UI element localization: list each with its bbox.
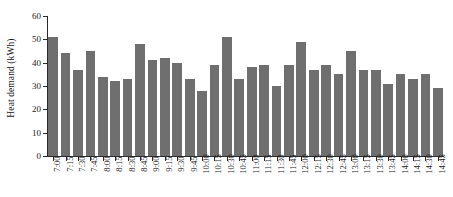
bar	[197, 91, 207, 156]
y-tick-label: 50	[32, 35, 41, 44]
y-tick-mark	[43, 156, 47, 157]
bar	[421, 74, 431, 156]
x-tick-label: 9:00	[152, 156, 161, 171]
bar	[160, 58, 170, 156]
x-tick-label: 14:00	[401, 154, 410, 174]
x-tick-label: 10:00	[202, 154, 211, 174]
x-tick-label: 7:45	[90, 156, 99, 171]
x-tick-label: 10:45	[239, 154, 248, 174]
x-tick-label: 9:30	[177, 156, 186, 171]
bar	[371, 70, 381, 156]
x-tick-label: 14:15	[413, 154, 422, 174]
x-tick-label: 9:45	[190, 156, 199, 171]
x-tick-label: 10:15	[214, 154, 223, 174]
x-tick-label: 11:45	[289, 154, 298, 173]
bar	[98, 77, 108, 156]
x-tick-label: 8:30	[128, 156, 137, 171]
bar	[123, 79, 133, 156]
bar	[73, 70, 83, 156]
x-tick-label: 8:00	[103, 156, 112, 171]
bar	[61, 53, 71, 156]
x-tick-label: 11:15	[264, 154, 273, 173]
x-tick-label: 12:30	[326, 154, 335, 174]
y-tick-mark	[43, 133, 47, 134]
y-tick-label: 30	[32, 82, 41, 91]
x-tick-label: 7:00	[53, 156, 62, 171]
bar	[234, 79, 244, 156]
y-tick-label: 60	[32, 12, 41, 21]
bar	[148, 60, 158, 156]
y-tick-mark	[43, 63, 47, 64]
bar	[172, 63, 182, 156]
bar	[433, 88, 443, 156]
x-tick-label: 12:15	[314, 154, 323, 174]
x-tick-label: 14:45	[438, 154, 447, 174]
y-tick-label: 0	[37, 152, 42, 161]
bar	[48, 37, 58, 156]
x-tick-label: 11:00	[252, 154, 261, 173]
y-tick-label: 10	[32, 128, 41, 137]
x-tick-label: 14:30	[425, 154, 434, 174]
x-tick-label: 10:30	[227, 154, 236, 174]
plot-area: 0102030405060 7:007:157:307:458:008:158:…	[47, 16, 444, 156]
y-axis-title-text: Heat demand (kWh)	[6, 38, 16, 117]
x-tick-label: 13:45	[388, 154, 397, 174]
x-tick-label: 7:15	[66, 156, 75, 171]
y-tick-mark	[43, 86, 47, 87]
bar	[321, 65, 331, 156]
bar	[396, 74, 406, 156]
x-tick-label: 12:45	[339, 154, 348, 174]
bar	[296, 42, 306, 156]
y-axis-title: Heat demand (kWh)	[2, 0, 20, 155]
bar	[259, 65, 269, 156]
bar	[284, 65, 294, 156]
bar	[359, 70, 369, 156]
bar	[210, 65, 220, 156]
bar	[222, 37, 232, 156]
x-tick-label: 8:15	[115, 156, 124, 171]
y-tick-mark	[43, 39, 47, 40]
x-tick-label: 13:00	[351, 154, 360, 174]
bar	[135, 44, 145, 156]
bar	[408, 79, 418, 156]
x-tick-label: 12:00	[301, 154, 310, 174]
x-tick-label: 13:15	[363, 154, 372, 174]
bar	[272, 86, 282, 156]
y-tick-label: 20	[32, 105, 41, 114]
x-tick-label: 7:30	[78, 156, 87, 171]
y-tick-mark	[43, 16, 47, 17]
x-tick-label: 9:15	[165, 156, 174, 171]
x-tick-label: 13:30	[376, 154, 385, 174]
bar	[86, 51, 96, 156]
y-tick-label: 40	[32, 58, 41, 67]
x-tick-label: 8:45	[140, 156, 149, 171]
bar	[334, 74, 344, 156]
bar	[247, 67, 257, 156]
bar	[309, 70, 319, 156]
bar	[110, 81, 120, 156]
bar	[383, 84, 393, 156]
y-tick-mark	[43, 109, 47, 110]
bar	[346, 51, 356, 156]
bar-chart-figure: Heat demand (kWh) 0102030405060 7:007:15…	[0, 0, 453, 197]
bar	[185, 79, 195, 156]
x-tick-label: 11:30	[277, 154, 286, 173]
